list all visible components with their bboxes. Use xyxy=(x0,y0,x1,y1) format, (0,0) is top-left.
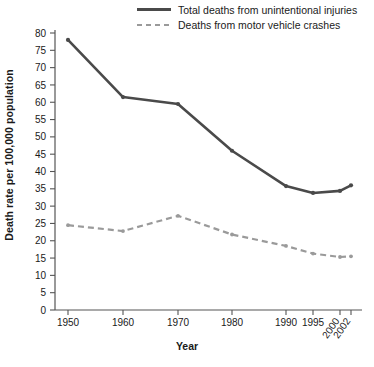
x-axis-ticks: 19501960197019801990199520002002 xyxy=(57,310,353,340)
y-tick-label: 0 xyxy=(40,305,46,316)
plot-area: 0510152025303540455055606570758019501960… xyxy=(0,0,374,367)
x-tick-label: 1950 xyxy=(57,317,80,328)
x-tick-label: 1980 xyxy=(221,317,244,328)
x-tick-label: 1970 xyxy=(167,317,190,328)
y-tick-label: 35 xyxy=(35,183,47,194)
y-tick-label: 25 xyxy=(35,218,47,229)
data-point-marker xyxy=(349,254,353,258)
data-point-marker xyxy=(230,149,234,153)
y-tick-label: 45 xyxy=(35,149,47,160)
data-point-marker xyxy=(338,255,342,259)
y-tick-label: 15 xyxy=(35,253,47,264)
data-point-marker xyxy=(284,244,288,248)
chart-svg: 0510152025303540455055606570758019501960… xyxy=(0,0,374,367)
series-line xyxy=(68,216,351,257)
x-axis-title-text: Year xyxy=(176,340,198,352)
y-axis-title-text: Death rate per 100,000 population xyxy=(3,69,15,240)
y-tick-label: 30 xyxy=(35,201,47,212)
data-point-marker xyxy=(121,229,125,233)
y-tick-label: 20 xyxy=(35,235,47,246)
y-tick-label: 50 xyxy=(35,131,47,142)
y-axis-title: Death rate per 100,000 population xyxy=(1,0,17,310)
y-tick-label: 55 xyxy=(35,114,47,125)
data-point-marker xyxy=(349,183,353,187)
y-tick-label: 70 xyxy=(35,62,47,73)
y-tick-label: 65 xyxy=(35,80,47,91)
y-tick-label: 75 xyxy=(35,45,47,56)
y-axis-ticks: 05101520253035404550556065707580 xyxy=(35,28,55,316)
y-tick-label: 5 xyxy=(40,287,46,298)
data-point-marker xyxy=(66,38,70,42)
x-tick-label: 1995 xyxy=(302,317,325,328)
data-point-marker xyxy=(230,233,234,237)
data-point-marker xyxy=(338,189,342,193)
data-point-marker xyxy=(284,184,288,188)
x-axis-title: Year xyxy=(0,340,374,352)
data-point-marker xyxy=(176,102,180,106)
series-line xyxy=(68,40,351,193)
y-tick-label: 40 xyxy=(35,166,47,177)
y-tick-label: 10 xyxy=(35,270,47,281)
data-point-marker xyxy=(176,214,180,218)
data-point-marker xyxy=(66,223,70,227)
x-tick-label: 1990 xyxy=(275,317,298,328)
x-tick-label: 1960 xyxy=(112,317,135,328)
y-tick-label: 80 xyxy=(35,28,47,39)
series-motor-vehicle xyxy=(66,214,353,259)
axis-lines xyxy=(55,30,362,310)
series-total-deaths xyxy=(66,38,353,195)
data-point-marker xyxy=(311,191,315,195)
data-point-marker xyxy=(311,252,315,256)
data-point-marker xyxy=(121,95,125,99)
chart-container: Total deaths from unintentional injuries… xyxy=(0,0,374,367)
y-tick-label: 60 xyxy=(35,97,47,108)
